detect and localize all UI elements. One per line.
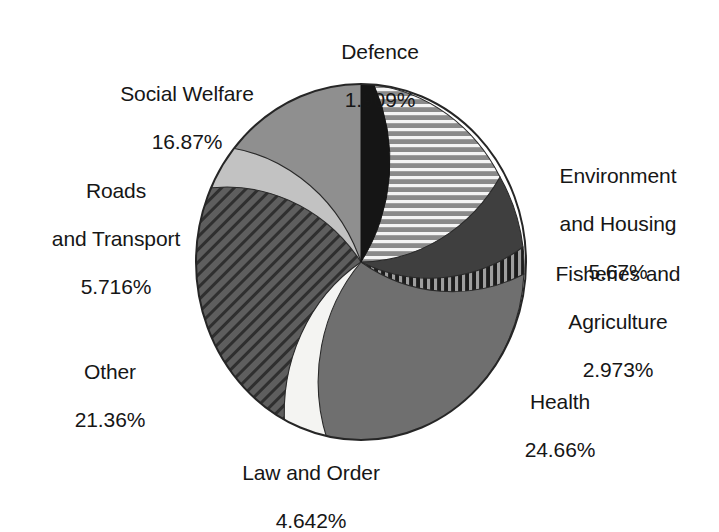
pie-label-roads-and-transport-line1: Roads xyxy=(6,179,226,203)
pie-label-other-value: 21.36% xyxy=(20,408,200,432)
pie-label-environment-and-housing-line2: and Housing xyxy=(520,212,716,236)
pie-label-roads-and-transport: Roads and Transport 5.716% xyxy=(6,155,226,323)
pie-label-social-welfare-value: 16.87% xyxy=(82,130,292,154)
pie-label-law-and-order-value: 4.642% xyxy=(196,509,426,532)
pie-label-fisheries-and-agriculture-line2: Agriculture xyxy=(520,310,716,334)
pie-label-health-name: Health xyxy=(480,390,640,414)
pie-label-fisheries-and-agriculture-line1: Fisheries and xyxy=(520,262,716,286)
pie-label-other: Other 21.36% xyxy=(20,336,200,456)
pie-label-law-and-order: Law and Order 4.642% xyxy=(196,437,426,532)
pie-label-health: Health 24.66% xyxy=(480,366,640,486)
pie-label-defence: Defence 1.909% xyxy=(272,16,488,136)
pie-label-roads-and-transport-value: 5.716% xyxy=(6,275,226,299)
pie-label-health-value: 24.66% xyxy=(480,438,640,462)
pie-label-social-welfare-name: Social Welfare xyxy=(82,82,292,106)
pie-label-defence-name: Defence xyxy=(272,40,488,64)
pie-label-defence-value: 1.909% xyxy=(272,88,488,112)
pie-label-law-and-order-name: Law and Order xyxy=(196,461,426,485)
pie-label-social-welfare: Social Welfare 16.87% xyxy=(82,58,292,178)
pie-label-roads-and-transport-line2: and Transport xyxy=(6,227,226,251)
pie-label-environment-and-housing-line1: Environment xyxy=(520,164,716,188)
pie-label-other-name: Other xyxy=(20,360,200,384)
